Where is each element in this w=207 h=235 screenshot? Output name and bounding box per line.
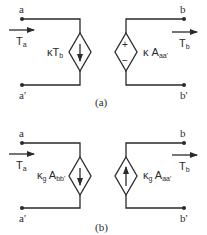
- caption-b: (b): [95, 221, 108, 234]
- bottom-wire: [126, 71, 184, 85]
- tb-label: Tb: [179, 160, 190, 173]
- left-port-a: a a' Ta κg Abb': [9, 127, 91, 224]
- terminal-b-dot: [182, 17, 186, 21]
- plus-sign: +: [122, 39, 128, 50]
- minus-sign: −: [122, 55, 128, 66]
- ta-label: Ta: [16, 35, 27, 48]
- panel-a: a a' Ta κTb b b' Tb + − κ Aaa' (a): [9, 3, 197, 109]
- terminal-b-prime-dot: [182, 206, 186, 210]
- terminal-b-label: b: [180, 3, 186, 15]
- top-wire: [22, 143, 80, 157]
- left-source-label: κg Abb': [37, 169, 65, 183]
- right-source-label: κ Aaa': [143, 46, 168, 59]
- panel-b: a a' Ta κg Abb' b b' Tb κg Aaa' (b): [9, 127, 197, 234]
- terminal-b-prime-dot: [182, 83, 186, 87]
- terminal-b-label: b: [180, 127, 186, 139]
- terminal-a-label: a: [19, 127, 24, 139]
- bottom-wire: [126, 195, 184, 208]
- circuit-diagram: a a' Ta κTb b b' Tb + − κ Aaa' (a): [0, 0, 207, 235]
- right-source-label: κg Aaa': [143, 169, 171, 183]
- terminal-b-prime-label: b': [180, 89, 188, 101]
- bottom-wire: [22, 71, 80, 85]
- ta-label: Ta: [16, 159, 27, 172]
- terminal-a-prime-dot: [20, 206, 24, 210]
- top-wire: [22, 19, 80, 33]
- left-port-a: a a' Ta κTb: [9, 3, 91, 101]
- caption-a: (a): [95, 96, 108, 109]
- terminal-a-prime-label: a': [19, 89, 26, 101]
- terminal-b-dot: [182, 141, 186, 145]
- terminal-a-prime-dot: [20, 83, 24, 87]
- terminal-b-prime-label: b': [180, 212, 188, 224]
- terminal-a-prime-label: a': [19, 212, 26, 224]
- right-port-b: b b' Tb κg Aaa': [115, 127, 197, 224]
- bottom-wire: [22, 195, 80, 208]
- terminal-a-label: a: [19, 3, 24, 15]
- left-source-label: κTb: [47, 46, 63, 59]
- terminal-a-dot: [20, 17, 24, 21]
- tb-label: Tb: [179, 37, 190, 50]
- top-wire: [126, 19, 184, 33]
- right-port-b: b b' Tb + − κ Aaa': [115, 3, 197, 101]
- terminal-a-dot: [20, 141, 24, 145]
